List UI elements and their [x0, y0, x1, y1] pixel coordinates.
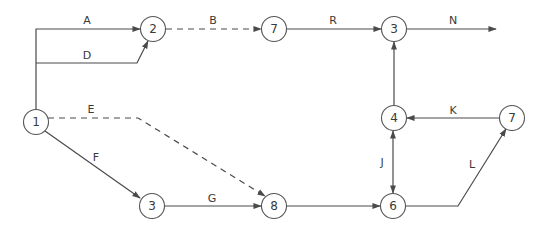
- svg-text:7: 7: [270, 22, 278, 36]
- svg-text:2: 2: [149, 22, 157, 36]
- edge-label-j: J: [379, 156, 383, 169]
- svg-text:4: 4: [390, 111, 398, 125]
- svg-text:3: 3: [390, 22, 398, 36]
- node-7-right: 7: [500, 106, 525, 131]
- edge-label-l: L: [469, 158, 476, 171]
- edge-f: [45, 131, 140, 198]
- network-diagram: A D B R N E F G J K L 1 2 7 3 4 7 3 8 6: [0, 0, 544, 230]
- node-6: 6: [381, 194, 406, 219]
- svg-text:8: 8: [270, 199, 278, 213]
- edge-e: [48, 118, 265, 196]
- svg-text:6: 6: [389, 199, 397, 213]
- edge-label-d: D: [83, 49, 91, 62]
- edge-label-e: E: [88, 103, 95, 116]
- edge-label-f: F: [93, 151, 99, 164]
- svg-text:3: 3: [148, 199, 156, 213]
- edge-label-k: K: [449, 104, 457, 117]
- edge-d: [36, 41, 148, 63]
- node-3-bottom: 3: [140, 194, 165, 219]
- edge-label-b: B: [209, 14, 217, 27]
- edge-l: [406, 129, 506, 206]
- node-4: 4: [382, 106, 407, 131]
- svg-text:1: 1: [32, 115, 40, 129]
- edge-label-a: A: [83, 14, 91, 27]
- node-3-top: 3: [382, 17, 407, 42]
- node-7-top: 7: [262, 17, 287, 42]
- svg-text:7: 7: [508, 111, 516, 125]
- node-2: 2: [141, 17, 166, 42]
- edge-label-n: N: [449, 14, 457, 27]
- node-1: 1: [24, 110, 49, 135]
- edge-a: [36, 29, 140, 110]
- edge-label-r: R: [329, 14, 337, 27]
- node-8: 8: [262, 194, 287, 219]
- edge-label-g: G: [208, 192, 217, 205]
